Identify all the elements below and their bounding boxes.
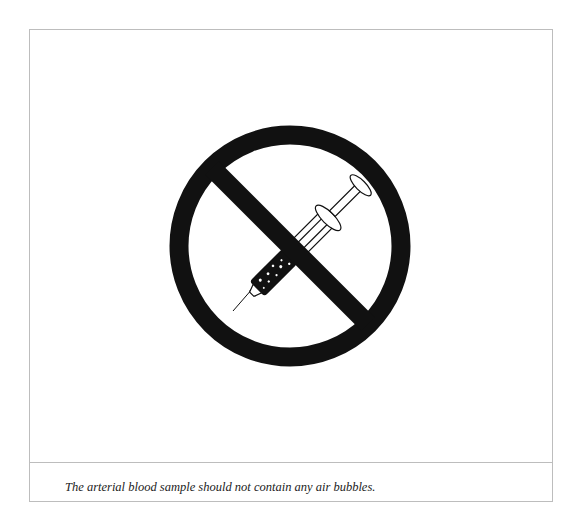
figure-illustration: [30, 30, 552, 462]
figure-frame: The arterial blood sample should not con…: [29, 29, 553, 502]
figure-caption: The arterial blood sample should not con…: [65, 480, 375, 495]
syringe-icon: [233, 170, 376, 311]
prohibition-sign-icon: [30, 30, 552, 462]
caption-divider: [30, 462, 552, 463]
